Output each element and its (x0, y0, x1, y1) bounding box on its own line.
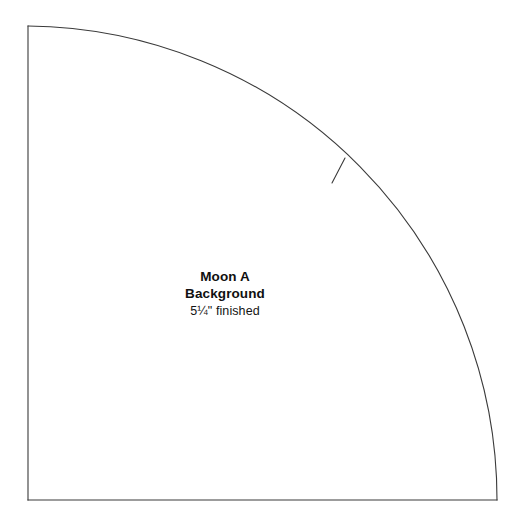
piece-finished-size: 5¼" finished (125, 305, 325, 318)
piece-name-line-1: Moon A (125, 270, 325, 284)
piece-name-line-2: Background (125, 287, 325, 301)
registration-notch-icon (332, 158, 345, 183)
pattern-sheet: Moon A Background 5¼" finished (0, 0, 516, 524)
piece-label-block: Moon A Background 5¼" finished (125, 270, 325, 318)
pattern-outline (0, 0, 516, 524)
curved-edge-arc (28, 26, 497, 500)
